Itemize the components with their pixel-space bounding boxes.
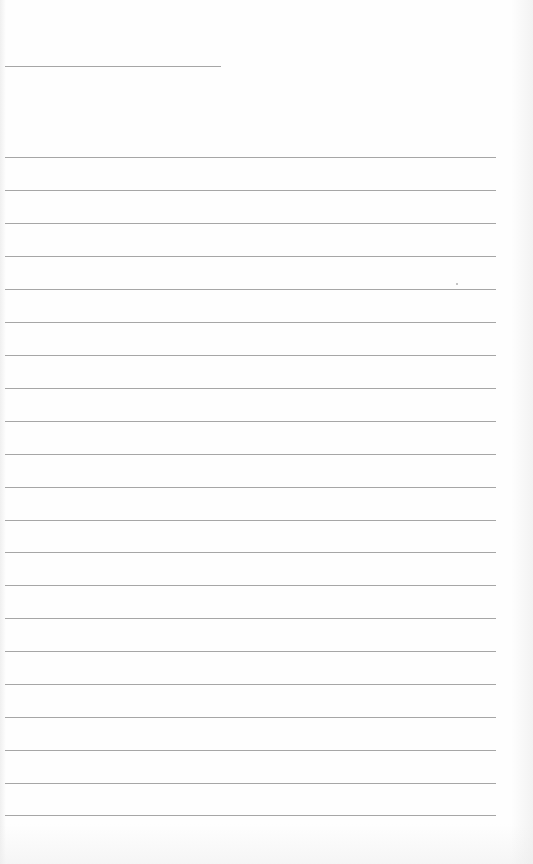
ruled-line <box>5 421 496 422</box>
ruled-line <box>5 289 496 290</box>
ruled-line <box>5 157 496 158</box>
ruled-line <box>5 783 496 784</box>
ruled-line <box>5 750 496 751</box>
ruled-line <box>5 717 496 718</box>
paper-speck <box>456 283 458 285</box>
ruled-line <box>5 256 496 257</box>
ruled-line <box>5 651 496 652</box>
ruled-line <box>5 190 496 191</box>
ruled-line <box>5 618 496 619</box>
ruled-line <box>5 552 496 553</box>
ruled-line <box>5 454 496 455</box>
ruled-line <box>5 815 496 816</box>
lined-paper-sheet <box>0 0 533 864</box>
ruled-line <box>5 388 496 389</box>
ruled-line <box>5 322 496 323</box>
left-edge-shadow <box>0 0 6 864</box>
ruled-line <box>5 355 496 356</box>
bottom-edge-shadow <box>0 824 533 864</box>
ruled-line <box>5 684 496 685</box>
ruled-line <box>5 223 496 224</box>
ruled-line <box>5 585 496 586</box>
ruled-line <box>5 487 496 488</box>
header-name-line <box>5 66 221 67</box>
ruled-line <box>5 520 496 521</box>
